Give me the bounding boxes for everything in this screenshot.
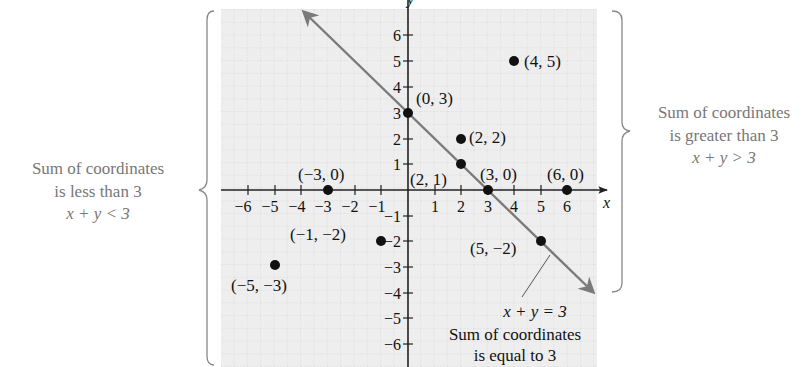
- svg-text:−3: −3: [314, 198, 331, 215]
- right-brace: [612, 11, 630, 292]
- svg-text:−6: −6: [384, 336, 401, 353]
- svg-text:−1: −1: [368, 198, 385, 215]
- svg-text:(0, 3): (0, 3): [416, 89, 453, 108]
- svg-text:6: 6: [393, 27, 401, 44]
- svg-text:3: 3: [393, 105, 401, 122]
- svg-text:−3: −3: [384, 259, 401, 276]
- line-note-2: is equal to 3: [474, 346, 557, 365]
- svg-text:5: 5: [537, 198, 545, 215]
- svg-text:(3, 0): (3, 0): [480, 165, 517, 184]
- svg-text:1: 1: [431, 198, 439, 215]
- svg-text:−6: −6: [234, 198, 251, 215]
- svg-text:(−5, −3): (−5, −3): [231, 276, 287, 295]
- svg-text:−4: −4: [288, 198, 305, 215]
- svg-text:6: 6: [563, 198, 571, 215]
- svg-text:−1: −1: [384, 208, 401, 225]
- svg-text:2: 2: [393, 131, 401, 148]
- svg-text:x + y > 3: x + y > 3: [691, 148, 756, 167]
- svg-text:−5: −5: [384, 310, 401, 327]
- svg-text:(5, −2): (5, −2): [470, 239, 516, 258]
- svg-text:2: 2: [457, 198, 465, 215]
- svg-text:(4, 5): (4, 5): [524, 52, 561, 71]
- svg-text:3: 3: [484, 198, 492, 215]
- svg-text:Sum of coordinates: Sum of coordinates: [658, 103, 790, 122]
- line-equation: x + y = 3: [502, 302, 567, 321]
- svg-text:−2: −2: [384, 233, 401, 250]
- svg-text:−2: −2: [341, 198, 358, 215]
- y-axis-label: y: [405, 0, 415, 8]
- svg-text:−5: −5: [261, 198, 278, 215]
- svg-text:(2, 2): (2, 2): [469, 128, 506, 147]
- svg-text:(−3, 0): (−3, 0): [298, 165, 344, 184]
- left-annotation: Sum of coordinates is less than 3 x + y …: [32, 159, 164, 223]
- coordinate-plane: y x −6−5−4 −3−2−1 123 456 654 321 −1−2−3…: [0, 0, 812, 367]
- svg-text:(6, 0): (6, 0): [547, 165, 584, 184]
- svg-text:Sum of coordinates: Sum of coordinates: [32, 159, 164, 178]
- svg-text:1: 1: [393, 156, 401, 173]
- svg-text:5: 5: [393, 53, 401, 70]
- svg-text:is greater than 3: is greater than 3: [669, 126, 778, 145]
- svg-text:is less than 3: is less than 3: [54, 182, 141, 201]
- svg-text:(2, 1): (2, 1): [410, 170, 447, 189]
- svg-text:(−1, −2): (−1, −2): [290, 225, 346, 244]
- svg-text:x + y < 3: x + y < 3: [65, 204, 130, 223]
- right-annotation: Sum of coordinates is greater than 3 x +…: [658, 103, 790, 167]
- line-note-1: Sum of coordinates: [449, 325, 581, 344]
- svg-text:4: 4: [393, 79, 401, 96]
- svg-text:−4: −4: [384, 285, 401, 302]
- left-brace: [199, 11, 214, 365]
- x-axis-label: x: [602, 194, 610, 211]
